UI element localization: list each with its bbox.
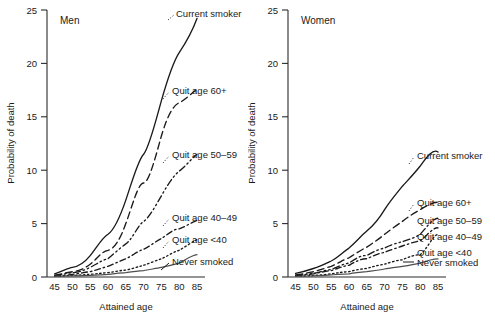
y-tick-label-25-women: 25 (267, 5, 278, 16)
figure-root: 0 5 10 15 20 25 45 50 55 60 65 70 75 80 … (0, 0, 495, 322)
y-tick-label-20-men: 20 (26, 58, 37, 69)
leader-quit-50-59-men (163, 156, 169, 163)
y-axis-title-women: Probability of death (248, 102, 257, 183)
y-tick-label-20-women: 20 (267, 58, 278, 69)
series-label-never-smoked-men: Never smoked (172, 256, 233, 267)
x-tick-label-65-women: 65 (362, 281, 373, 292)
y-tick-label-15-women: 15 (267, 111, 278, 122)
curve-quit-40-49-men (55, 220, 197, 276)
x-tick-label-60-women: 60 (344, 281, 355, 292)
y-tick-label-0-women: 0 (273, 272, 278, 283)
x-tick-label-80-men: 80 (174, 281, 185, 292)
y-tick-label-5-women: 5 (273, 218, 278, 229)
panel-men-plot: 0 5 10 15 20 25 45 50 55 60 65 70 75 80 … (0, 0, 247, 322)
curve-quit-60-plus-men (55, 89, 197, 275)
x-tick-label-70-men: 70 (138, 281, 149, 292)
series-label-quit-50-59-men: Quit age 50–59 (172, 149, 237, 160)
panel-women: 0 5 10 15 20 25 45 50 55 60 65 70 75 80 … (248, 0, 495, 322)
y-tick-label-0-men: 0 (32, 272, 37, 283)
x-tick-label-85-women: 85 (433, 281, 444, 292)
y-tick-label-10-men: 10 (26, 165, 37, 176)
y-axis-title-men: Probability of death (5, 102, 16, 183)
x-axis-title-women: Attained age (340, 301, 393, 312)
series-label-current-smoker-women: Current smoker (417, 150, 482, 161)
series-label-current-smoker-men: Current smoker (176, 8, 241, 19)
leader-quit-40-49-men (163, 219, 169, 226)
x-tick-label-80-women: 80 (415, 281, 426, 292)
leader-current-smoker-men (168, 15, 174, 20)
series-label-quit-40-49-women: Quit age 40–49 (417, 231, 482, 242)
x-tick-label-55-men: 55 (85, 281, 96, 292)
x-tick-label-45-men: 45 (49, 281, 60, 292)
leader-quit-60-plus-women (409, 204, 414, 211)
y-ticks-women (282, 10, 288, 277)
series-label-quit-60-plus-men: Quit age 60+ (172, 85, 227, 96)
series-label-quit-40-49-men: Quit age 40–49 (172, 212, 237, 223)
series-label-quit-60-plus-women: Quit age 60+ (417, 197, 472, 208)
panel-women-plot: 0 5 10 15 20 25 45 50 55 60 65 70 75 80 … (248, 0, 495, 322)
series-label-never-smoked-women-visible: Never smoked (417, 257, 478, 268)
y-tick-label-15-men: 15 (26, 111, 37, 122)
y-tick-label-25-men: 25 (26, 5, 37, 16)
x-tick-label-50-women: 50 (308, 281, 319, 292)
panel-title-men: Men (60, 15, 79, 26)
leader-current-smoker-women (409, 157, 414, 164)
x-tick-label-70-women: 70 (379, 281, 390, 292)
y-tick-label-5-men: 5 (32, 218, 37, 229)
x-axis-title-men: Attained age (99, 301, 152, 312)
x-tick-label-65-men: 65 (121, 281, 132, 292)
x-tick-label-75-women: 75 (397, 281, 408, 292)
panel-men: 0 5 10 15 20 25 45 50 55 60 65 70 75 80 … (0, 0, 247, 322)
x-tick-label-85-men: 85 (192, 281, 203, 292)
x-tick-label-50-men: 50 (67, 281, 78, 292)
x-tick-label-75-men: 75 (156, 281, 167, 292)
x-tick-label-60-men: 60 (103, 281, 114, 292)
y-ticks-men (41, 10, 47, 277)
series-label-quit-under-40-men: Quit age <40 (172, 234, 227, 245)
x-tick-label-45-women: 45 (290, 281, 301, 292)
y-tick-label-10-women: 10 (267, 165, 278, 176)
leader-quit-under-40-men (163, 241, 169, 248)
x-tick-label-55-women: 55 (326, 281, 337, 292)
series-label-quit-50-59-women: Quit age 50–59 (417, 215, 482, 226)
panel-title-women: Women (301, 15, 335, 26)
